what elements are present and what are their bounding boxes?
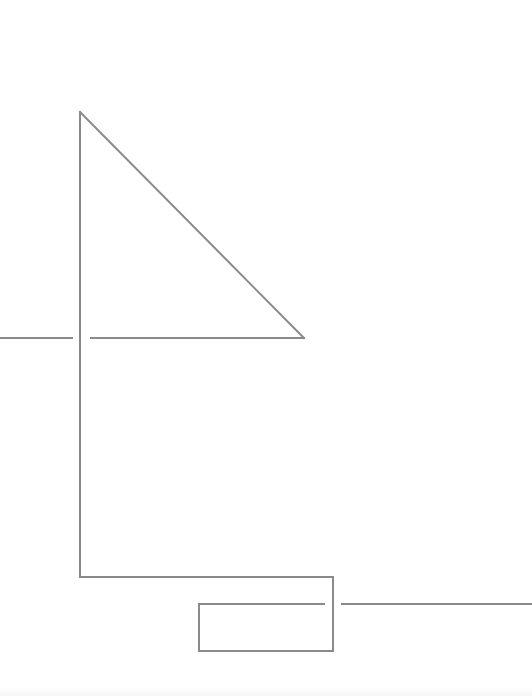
inner-rectangle	[199, 604, 333, 651]
bottom-edge-shadow	[0, 688, 532, 696]
line-diagram	[0, 0, 532, 696]
triangle-hypotenuse	[80, 112, 304, 338]
bottom-bracket	[80, 577, 333, 651]
